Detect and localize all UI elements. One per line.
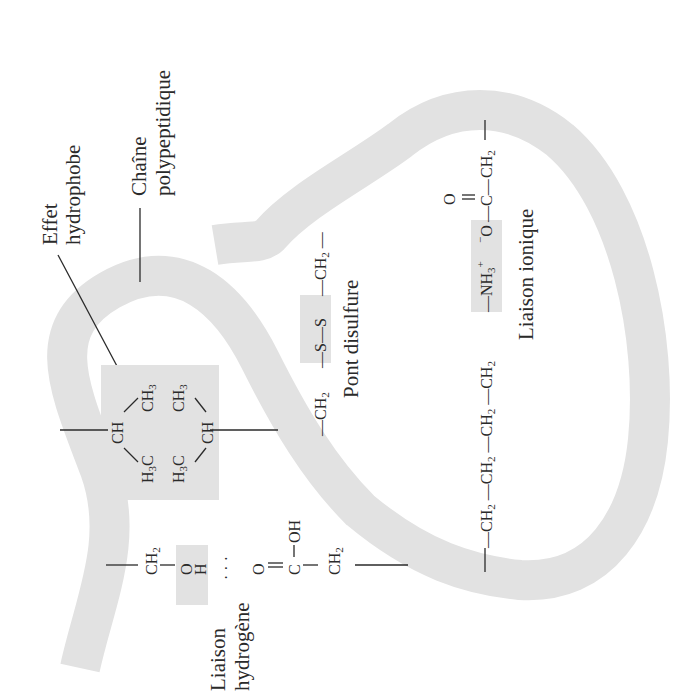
label-chaine-polypeptidique: Chaîne polypeptidique	[127, 70, 175, 196]
label-hydrophobe: hydrophobe	[61, 145, 85, 245]
hbond-ch2-left: CH2	[143, 547, 162, 575]
ionic-chain: —CH2—CH2—CH2—CH2	[478, 361, 497, 549]
hbond-dots: · · ·	[218, 556, 235, 580]
disulfide-ch2-left: —CH2	[312, 392, 331, 437]
label-liaison: Liaison	[206, 628, 230, 691]
disulfide-s-s: —S—S	[312, 318, 329, 369]
tertiary-structure-diagram: Effet hydrophobe Chaîne polypeptidique P…	[0, 0, 697, 691]
disulfide-ch2-right: —CH2 —	[312, 231, 331, 297]
label-pont-disulfure: Pont disulfure	[339, 280, 363, 398]
disulfide-group: —CH2 —S—S —CH2 —	[312, 231, 331, 437]
hbond-h: H	[192, 563, 209, 575]
ionic-o-double: O	[441, 193, 458, 205]
ionic-c: —C—	[478, 178, 495, 223]
label-polypeptidique: polypeptidique	[151, 70, 175, 196]
hbond-c: C	[286, 564, 303, 575]
hbond-ch2-right: CH2	[326, 547, 345, 575]
label-chaine: Chaîne	[127, 137, 151, 196]
label-liaison-hydrogene: Liaison hydrogène	[206, 602, 254, 691]
ionic-ch2: CH2	[478, 150, 497, 178]
hbond-o2: O	[250, 563, 267, 575]
hbond-group: CH2 O H · · · O C OH CH2	[135, 519, 345, 580]
label-hydrogene: hydrogène	[230, 602, 254, 691]
label-effet: Effet	[38, 203, 62, 245]
ionic-group: —CH2—CH2—CH2—CH2 —NH3+ −O —C— O CH2	[441, 120, 497, 549]
label-effet-hydrophobe: Effet hydrophobe	[38, 145, 85, 245]
ch-left: CH	[109, 421, 126, 444]
hbond-oh: OH	[286, 519, 303, 543]
label-liaison-ionique: Liaison ionique	[514, 209, 538, 340]
ch-right: CH	[199, 421, 216, 444]
